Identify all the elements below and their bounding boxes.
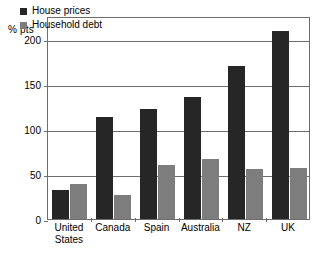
y-axis-tick-label: 50 [30, 171, 41, 181]
x-axis-label: Canada [91, 222, 135, 234]
bar [70, 184, 87, 219]
bar [184, 97, 201, 219]
bar [140, 109, 157, 219]
x-axis-tick [91, 218, 92, 222]
bar [114, 195, 131, 219]
y-axis-tick-label: 0 [35, 216, 41, 226]
bar-group [136, 18, 180, 219]
x-axis-label: UnitedStates [47, 222, 91, 246]
bar [290, 168, 307, 219]
y-axis-tick-label: 150 [24, 81, 41, 91]
bar-group [223, 18, 267, 219]
legend-swatch-house-prices [20, 8, 27, 15]
bar [228, 66, 245, 219]
x-axis-tick [266, 218, 267, 222]
legend-label-household-debt: Household debt [32, 20, 102, 30]
plot-area: 050100150200 [47, 17, 310, 220]
bar-group [92, 18, 136, 219]
y-axis-tick-label: 100 [24, 126, 41, 136]
x-axis-label-line: NZ [222, 222, 266, 234]
x-axis-label-line: Australia [179, 222, 223, 234]
legend-item-house-prices: House prices [20, 5, 102, 17]
bar [96, 117, 113, 219]
x-axis-label: UK [266, 222, 310, 234]
bar [158, 165, 175, 219]
x-axis-label: Spain [135, 222, 179, 234]
x-axis-label-line: Spain [135, 222, 179, 234]
bars-layer [48, 18, 309, 219]
bar-group [267, 18, 311, 219]
y-axis-tick-label: 200 [24, 36, 41, 46]
x-axis-labels: UnitedStatesCanadaSpainAustraliaNZUK [47, 222, 310, 262]
x-axis-tick [222, 218, 223, 222]
bar [272, 31, 289, 219]
legend: House prices Household debt [20, 5, 102, 33]
x-axis-label-line: UK [266, 222, 310, 234]
x-axis-tick [135, 218, 136, 222]
bar-group [48, 18, 92, 219]
bar [52, 190, 69, 219]
x-axis-label: NZ [222, 222, 266, 234]
x-axis-label-line: States [47, 234, 91, 246]
bar [202, 159, 219, 219]
legend-item-household-debt: Household debt [20, 19, 102, 31]
bar-group [180, 18, 224, 219]
x-axis-tick [179, 218, 180, 222]
x-axis-label-line: Canada [91, 222, 135, 234]
x-axis-label-line: United [47, 222, 91, 234]
bar [246, 169, 263, 219]
legend-label-house-prices: House prices [32, 6, 90, 16]
x-axis-label: Australia [179, 222, 223, 234]
bar-chart: % pts 050100150200 House prices Househol… [0, 0, 335, 266]
legend-swatch-household-debt [20, 22, 27, 29]
